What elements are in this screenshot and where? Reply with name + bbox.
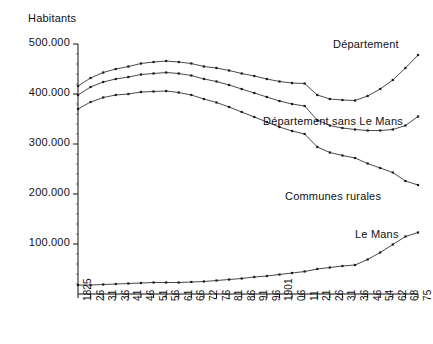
series-line: [78, 91, 418, 185]
x-axis-tick-label: 06: [296, 290, 307, 301]
data-point-marker: [152, 90, 154, 92]
x-axis-tick-label: 26: [95, 290, 106, 301]
data-point-marker: [127, 93, 129, 95]
data-point-marker: [417, 231, 419, 233]
data-point-marker: [115, 68, 117, 70]
data-point-marker: [178, 72, 180, 74]
data-point-marker: [253, 92, 255, 94]
data-point-marker: [404, 235, 406, 237]
x-axis-tick-label: 11: [309, 290, 320, 301]
data-point-marker: [304, 270, 306, 272]
data-point-marker: [241, 111, 243, 113]
y-axis-ticks: [73, 44, 78, 284]
data-point-marker: [354, 157, 356, 159]
data-point-marker: [77, 94, 79, 96]
data-point-marker: [291, 130, 293, 132]
data-point-marker: [329, 151, 331, 153]
data-point-marker: [341, 99, 343, 101]
data-point-marker: [354, 99, 356, 101]
x-axis-tick-label: 21: [321, 290, 332, 301]
data-point-marker: [404, 180, 406, 182]
data-point-marker: [354, 128, 356, 130]
data-point-marker: [392, 79, 394, 81]
data-point-marker: [379, 167, 381, 169]
data-point-marker: [228, 106, 230, 108]
data-point-marker: [115, 78, 117, 80]
data-point-marker: [392, 128, 394, 130]
data-point-marker: [215, 101, 217, 103]
data-point-marker: [89, 77, 91, 79]
data-point-marker: [215, 67, 217, 69]
data-point-marker: [354, 264, 356, 266]
data-point-marker: [102, 71, 104, 73]
data-point-marker: [178, 61, 180, 63]
data-point-marker: [241, 88, 243, 90]
data-point-marker: [404, 67, 406, 69]
data-point-marker: [304, 105, 306, 107]
series-label-le-mans: Le Mans: [355, 228, 399, 240]
x-axis-tick-label: 81: [233, 290, 244, 301]
data-point-marker: [367, 129, 369, 131]
data-point-marker: [228, 84, 230, 86]
x-axis-tick-label: 36: [120, 290, 131, 301]
data-point-marker: [140, 73, 142, 75]
x-axis-tick-label: 75: [422, 290, 433, 301]
x-axis-tick-label: 86: [246, 290, 257, 301]
data-point-marker: [278, 80, 280, 82]
data-point-marker: [266, 96, 268, 98]
axis-lines: [78, 44, 418, 294]
x-axis-tick-label: 61: [183, 290, 194, 301]
data-point-marker: [228, 69, 230, 71]
data-point-marker: [152, 72, 154, 74]
series-label-d-partement-sans-le-mans: Département sans Le Mans: [263, 115, 403, 127]
data-point-marker: [190, 62, 192, 64]
y-axis-tick-label: 100.000: [0, 236, 70, 248]
x-axis-tick-label: 72: [208, 290, 219, 301]
x-axis-tick-label: 1825: [82, 278, 93, 301]
y-axis-tick-label: 200.000: [0, 186, 70, 198]
data-point-marker: [329, 98, 331, 100]
data-point-marker: [178, 91, 180, 93]
data-point-marker: [152, 61, 154, 63]
data-point-marker: [152, 281, 154, 283]
y-axis-tick-label: 300.000: [0, 136, 70, 148]
data-point-marker: [266, 78, 268, 80]
data-point-marker: [115, 283, 117, 285]
data-point-marker: [102, 81, 104, 83]
data-point-marker: [291, 82, 293, 84]
data-point-marker: [291, 103, 293, 105]
x-axis-tick-label: 51: [158, 290, 169, 301]
data-point-marker: [215, 80, 217, 82]
x-axis-tick-label: 46: [145, 290, 156, 301]
data-point-marker: [165, 60, 167, 62]
data-point-marker: [241, 72, 243, 74]
data-point-marker: [341, 154, 343, 156]
data-point-marker: [203, 78, 205, 80]
data-point-marker: [291, 272, 293, 274]
data-point-marker: [417, 54, 419, 56]
data-point-marker: [404, 124, 406, 126]
series-label-communes-rurales: Communes rurales: [285, 190, 381, 202]
data-point-marker: [316, 268, 318, 270]
data-point-marker: [190, 74, 192, 76]
data-point-marker: [379, 129, 381, 131]
data-point-marker: [417, 184, 419, 186]
data-point-marker: [89, 101, 91, 103]
data-point-marker: [203, 98, 205, 100]
data-point-marker: [379, 251, 381, 253]
data-point-marker: [203, 280, 205, 282]
data-point-marker: [304, 133, 306, 135]
data-point-marker: [215, 279, 217, 281]
data-point-marker: [379, 88, 381, 90]
y-axis-tick-label: 400.000: [0, 86, 70, 98]
data-point-marker: [127, 65, 129, 67]
series-layer: [77, 54, 419, 286]
data-point-marker: [278, 273, 280, 275]
data-point-marker: [241, 277, 243, 279]
data-point-marker: [316, 94, 318, 96]
data-point-marker: [329, 266, 331, 268]
data-point-marker: [127, 76, 129, 78]
data-point-marker: [102, 283, 104, 285]
data-point-marker: [190, 281, 192, 283]
